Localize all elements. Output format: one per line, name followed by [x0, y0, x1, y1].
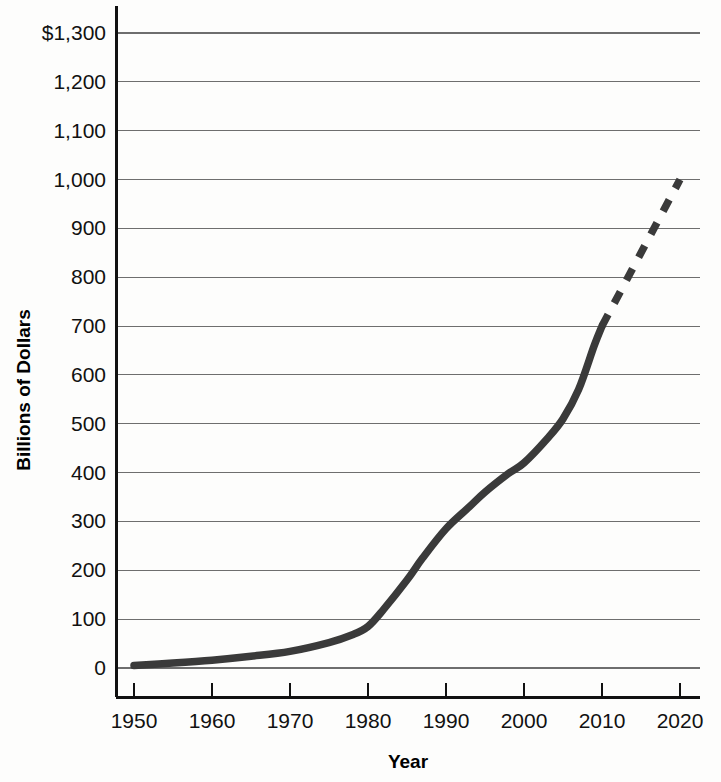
y-tick-label: 100 [71, 607, 106, 630]
y-tick-label: 1,100 [53, 119, 106, 142]
y-tick-label: 200 [71, 558, 106, 581]
y-tick-label: 0 [94, 656, 106, 679]
series-actual-line [134, 326, 602, 665]
y-tick-label: 1,000 [53, 168, 106, 191]
y-tick-label: 600 [71, 363, 106, 386]
series-projected-line [602, 180, 680, 327]
x-tick-label: 2000 [501, 709, 548, 732]
x-axis-title: Year [388, 751, 429, 772]
y-tick-label: 900 [71, 216, 106, 239]
x-tick-label: 1990 [423, 709, 470, 732]
y-tick-label: 400 [71, 461, 106, 484]
y-tick-label: 700 [71, 314, 106, 337]
x-tick-label: 1980 [345, 709, 392, 732]
x-tick-label: 2020 [657, 709, 704, 732]
y-tick-label: 1,200 [53, 70, 106, 93]
x-tick-label: 1950 [111, 709, 158, 732]
y-tick-label: 300 [71, 509, 106, 532]
x-tick-label: 1970 [267, 709, 314, 732]
y-tick-label: $1,300 [42, 21, 106, 44]
y-tick-label: 500 [71, 412, 106, 435]
x-tick-label: 2010 [579, 709, 626, 732]
line-chart: 01002003004005006007008009001,0001,1001,… [0, 0, 721, 782]
x-axis-tick-labels: 19501960197019801990200020102020 [111, 709, 704, 732]
y-tick-label: 800 [71, 265, 106, 288]
x-tick-label: 1960 [189, 709, 236, 732]
x-axis-tick-marks [134, 683, 680, 697]
y-axis-tick-labels: 01002003004005006007008009001,0001,1001,… [42, 21, 106, 679]
chart-container: 01002003004005006007008009001,0001,1001,… [0, 0, 721, 782]
y-axis-title: Billions of Dollars [13, 309, 34, 471]
